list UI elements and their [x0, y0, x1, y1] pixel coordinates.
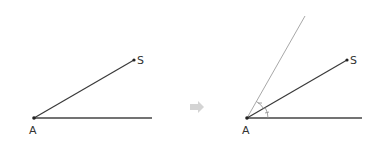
ray-AS — [34, 60, 134, 118]
point-A-dot — [245, 116, 249, 120]
ray-AS — [247, 60, 347, 118]
label-S: S — [137, 54, 144, 67]
label-S: S — [350, 54, 357, 67]
label-A: A — [242, 124, 250, 137]
figure-right: A S — [242, 16, 362, 137]
angle-tick-lower — [265, 112, 269, 113]
point-A-dot — [32, 116, 36, 120]
point-S-dot — [132, 58, 135, 61]
label-A: A — [29, 124, 37, 137]
angle-arc-upper — [256, 102, 263, 109]
construction-ray — [247, 16, 305, 118]
diagram-canvas: A S A S — [0, 0, 390, 156]
point-S-dot — [345, 58, 348, 61]
figure-left: A S — [29, 54, 152, 137]
arrow-icon — [190, 101, 204, 113]
